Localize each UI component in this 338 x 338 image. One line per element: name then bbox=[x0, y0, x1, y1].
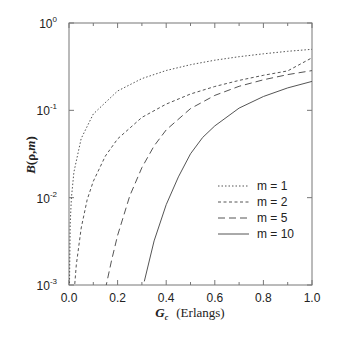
series-line-m2 bbox=[74, 58, 312, 295]
x-tick-label: 0.4 bbox=[158, 291, 175, 305]
legend-label: m = 10 bbox=[257, 227, 294, 241]
x-tick-label: 0.2 bbox=[109, 291, 126, 305]
x-axis-title-sub: c bbox=[165, 313, 169, 322]
x-tick-label: 0.0 bbox=[61, 291, 78, 305]
y-axis-title: B(ρ,m) bbox=[23, 136, 38, 175]
x-tick-label: 0.8 bbox=[255, 291, 272, 305]
x-axis-title-unit: (Erlangs) bbox=[176, 305, 224, 320]
chart: 0.00.20.40.60.81.0 10010-110-210-3 Gc(Er… bbox=[0, 0, 338, 338]
y-tick-label: 10-2 bbox=[37, 190, 58, 206]
y-axis-title-close: ) bbox=[23, 136, 38, 140]
y-axis-title-rho: (ρ, bbox=[23, 151, 38, 166]
y-axis-title-m: m bbox=[23, 141, 38, 151]
legend-label: m = 2 bbox=[257, 195, 288, 209]
y-tick-label: 10-1 bbox=[37, 102, 58, 118]
x-tick-label: 0.6 bbox=[206, 291, 223, 305]
x-tick-label: 1.0 bbox=[304, 291, 321, 305]
x-axis-ticks: 0.00.20.40.60.81.0 bbox=[61, 23, 321, 305]
y-axis-title-b: B bbox=[23, 165, 38, 175]
legend: m = 1m = 2m = 5m = 10 bbox=[218, 179, 294, 241]
legend-label: m = 1 bbox=[257, 179, 288, 193]
x-axis-title: Gc(Erlangs) bbox=[155, 305, 224, 322]
legend-label: m = 5 bbox=[257, 211, 288, 225]
y-tick-label: 100 bbox=[39, 15, 57, 31]
y-tick-label: 10-3 bbox=[37, 277, 58, 293]
